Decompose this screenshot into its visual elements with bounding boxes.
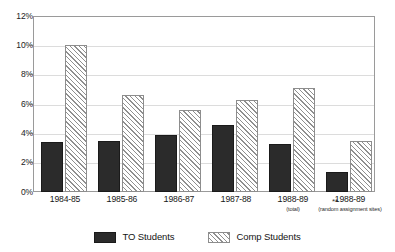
x-tick-label-text: 1984-85 <box>50 194 81 204</box>
x-tick-label-text: 1988-89 <box>278 194 309 204</box>
bar-to-students-1988-89-random-assignment-sites <box>326 172 348 193</box>
bar-group-1986-87 <box>154 16 204 192</box>
bar-to-students-1984-85 <box>41 142 63 192</box>
x-tick-label-text: 1986-87 <box>164 194 195 204</box>
legend-item-to-students: TO Students <box>94 232 174 243</box>
bar-group-1988-89-random-assignment-sites <box>325 16 375 192</box>
legend-swatch-hatched-icon <box>208 232 230 243</box>
bar-to-students-1987-88 <box>212 125 234 193</box>
legend-item-comp-students: Comp Students <box>208 232 300 243</box>
bar-group-1984-85 <box>40 16 90 192</box>
x-tick-label-1988-89-random-assignment-sites: 1988-89 (random assignment sites) <box>310 194 390 213</box>
bar-group-1987-88 <box>211 16 261 192</box>
bar-to-students-1985-86 <box>98 141 120 192</box>
x-tick-label-text: 1988-89 <box>335 194 366 204</box>
y-axis: 12% 10% 8% 6% 4% 2% 0% <box>0 0 33 252</box>
legend-label-comp-students: Comp Students <box>236 232 300 242</box>
bar-comp-students-1988-89-total <box>293 88 315 192</box>
bar-to-students-1988-89-total <box>269 144 291 192</box>
x-tick-sublabel-random-assignment-sites: (random assignment sites) <box>310 205 390 213</box>
bars-layer <box>33 16 375 192</box>
bar-chart: 12% 10% 8% 6% 4% 2% 0% <box>0 0 395 252</box>
bar-to-students-1986-87 <box>155 135 177 192</box>
y-tick-label-12: 12% <box>5 12 33 21</box>
x-tick-label-text: 1987-88 <box>221 194 252 204</box>
x-tick-label-text: 1985-86 <box>107 194 138 204</box>
x-axis: 1984-85 · 1985-86 · 1986-87 · 1987-88 · … <box>33 194 375 224</box>
legend-label-to-students: TO Students <box>122 232 174 242</box>
bar-group-1988-89-total <box>268 16 318 192</box>
chart-legend: TO Students Comp Students <box>0 228 395 246</box>
bar-comp-students-1988-89-random-assignment-sites <box>350 141 372 192</box>
bar-comp-students-1986-87 <box>179 110 201 192</box>
bar-comp-students-1987-88 <box>236 100 258 192</box>
bar-comp-students-1985-86 <box>122 95 144 192</box>
legend-swatch-solid-icon <box>94 232 116 243</box>
bar-comp-students-1984-85 <box>65 45 87 192</box>
bar-group-1985-86 <box>97 16 147 192</box>
